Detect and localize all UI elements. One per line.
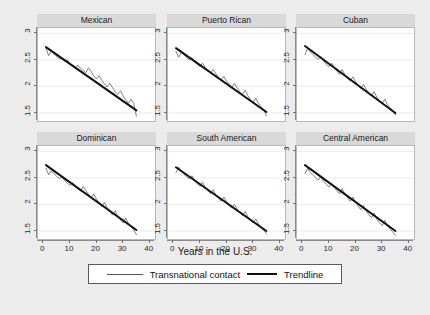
y-axis: 1.522.53 <box>21 27 37 120</box>
plot-area <box>296 27 415 122</box>
legend-label-trend: Trendline <box>284 269 323 280</box>
y-axis: 1.522.53 <box>151 27 167 120</box>
y-tick-label: 2 <box>153 191 162 213</box>
legend-line-series-icon <box>107 274 143 275</box>
y-tick-label: 3 <box>153 138 162 160</box>
x-axis-label: Years in the U.S. <box>0 246 430 257</box>
y-tick-label: 3 <box>23 20 32 42</box>
y-tick-label: 2.5 <box>153 164 162 186</box>
y-tick-label: 3 <box>282 138 291 160</box>
y-tick-label: 2 <box>282 73 291 95</box>
y-tick-label: 1.5 <box>282 100 291 122</box>
chart-legend: Transnational contact Trendline <box>88 264 342 284</box>
series-path <box>305 168 395 235</box>
plot-canvas <box>38 146 155 239</box>
y-tick-mark <box>293 177 296 178</box>
panel-title: Dominican <box>37 132 156 145</box>
y-tick-mark <box>164 59 167 60</box>
y-axis: 1.522.53 <box>151 145 167 238</box>
chart-figure: Mexican1.522.53Puerto Rican1.522.53Cuban… <box>0 0 430 315</box>
panel-grid: Mexican1.522.53Puerto Rican1.522.53Cuban… <box>22 14 414 242</box>
plot-canvas <box>297 28 414 121</box>
plot-area <box>296 145 415 240</box>
y-tick-label: 1.5 <box>153 218 162 240</box>
y-axis: 1.522.53 <box>280 27 296 120</box>
chart-panel: Central American1.522.53010203040 <box>296 132 415 240</box>
chart-panel: Cuban1.522.53 <box>296 14 415 122</box>
x-tick-mark <box>226 240 227 243</box>
x-tick-mark <box>301 240 302 243</box>
y-tick-label: 2.5 <box>23 46 32 68</box>
y-tick-mark <box>164 203 167 204</box>
y-tick-mark <box>34 112 37 113</box>
x-tick-mark <box>172 240 173 243</box>
trendline-path <box>46 165 136 230</box>
panel-title: Cuban <box>296 14 415 27</box>
y-tick-mark <box>293 230 296 231</box>
y-tick-label: 2.5 <box>282 46 291 68</box>
series-path <box>305 48 395 114</box>
y-tick-mark <box>34 150 37 151</box>
y-tick-mark <box>293 32 296 33</box>
y-tick-mark <box>293 85 296 86</box>
y-tick-mark <box>34 85 37 86</box>
y-tick-mark <box>293 59 296 60</box>
panel-title: Puerto Rican <box>167 14 286 27</box>
x-tick-mark <box>381 240 382 243</box>
y-tick-label: 1.5 <box>153 100 162 122</box>
y-tick-mark <box>164 32 167 33</box>
plot-area <box>167 27 286 122</box>
plot-canvas <box>297 146 414 239</box>
legend-line-trend-icon <box>247 273 277 275</box>
x-tick-mark <box>408 240 409 243</box>
panel-title: South American <box>167 132 286 145</box>
chart-panel: Dominican1.522.53010203040 <box>37 132 156 240</box>
chart-panel: South American1.522.53010203040 <box>167 132 286 240</box>
y-tick-mark <box>164 112 167 113</box>
x-tick-mark <box>199 240 200 243</box>
y-tick-label: 1.5 <box>282 218 291 240</box>
x-tick-mark <box>279 240 280 243</box>
y-tick-mark <box>293 203 296 204</box>
y-tick-mark <box>34 203 37 204</box>
chart-panel: Puerto Rican1.522.53 <box>167 14 286 122</box>
y-tick-mark <box>164 85 167 86</box>
x-tick-mark <box>42 240 43 243</box>
x-tick-mark <box>252 240 253 243</box>
plot-area <box>37 145 156 240</box>
x-tick-mark <box>355 240 356 243</box>
trendline-path <box>176 48 266 112</box>
y-tick-mark <box>293 112 296 113</box>
y-tick-label: 3 <box>282 20 291 42</box>
x-tick-mark <box>69 240 70 243</box>
y-tick-label: 1.5 <box>23 100 32 122</box>
y-tick-mark <box>34 177 37 178</box>
y-tick-mark <box>293 150 296 151</box>
y-tick-mark <box>164 230 167 231</box>
y-tick-mark <box>34 32 37 33</box>
y-tick-mark <box>34 59 37 60</box>
y-tick-mark <box>164 150 167 151</box>
y-axis-line <box>295 27 296 120</box>
x-tick-mark <box>328 240 329 243</box>
y-axis-line <box>36 27 37 120</box>
y-tick-label: 3 <box>23 138 32 160</box>
y-tick-label: 3 <box>153 20 162 42</box>
series-path <box>46 48 136 116</box>
y-tick-mark <box>164 177 167 178</box>
y-tick-label: 2.5 <box>153 46 162 68</box>
plot-canvas <box>168 146 285 239</box>
x-tick-mark <box>149 240 150 243</box>
y-axis-line <box>166 27 167 120</box>
y-axis-line <box>295 145 296 238</box>
plot-area <box>37 27 156 122</box>
trendline-path <box>46 47 136 110</box>
trendline-path <box>305 165 395 231</box>
y-axis: 1.522.53 <box>21 145 37 238</box>
x-tick-mark <box>96 240 97 243</box>
y-axis: 1.522.53 <box>280 145 296 238</box>
panel-title: Mexican <box>37 14 156 27</box>
x-tick-mark <box>122 240 123 243</box>
y-axis-line <box>166 145 167 238</box>
legend-label-series: Transnational contact <box>150 269 240 280</box>
